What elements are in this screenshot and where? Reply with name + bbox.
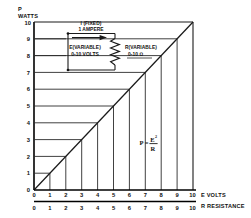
resistor-label-line2: 0-10 Ω — [128, 52, 143, 57]
current-label-line1: I (FIXED) — [81, 21, 102, 26]
x-volts-tick-0: 0 — [32, 192, 35, 198]
x-res-tick-10: 10 — [189, 205, 195, 211]
y-tick-0: 0 — [27, 187, 30, 193]
y-tick-10: 10 — [25, 20, 31, 26]
power-resistance-figure: 0 1 2 3 4 5 6 7 8 9 10 P WATTS 0 1 2 3 4… — [0, 0, 251, 218]
x-res-tick-0: 0 — [32, 205, 35, 211]
x-res-tick-7: 7 — [144, 205, 147, 211]
formula-lhs: P = — [140, 139, 149, 146]
x-volts-tick-10: 10 — [189, 192, 195, 198]
formula-denominator: R — [151, 145, 156, 152]
source-label-line2: 0-10 VOLTS — [71, 52, 99, 57]
formula-exponent: 2 — [155, 134, 157, 139]
x-volts-tick-7: 7 — [144, 192, 147, 198]
circuit-node-top-left — [67, 32, 70, 35]
y-axis-title-unit: WATTS — [18, 13, 38, 19]
chart-canvas: 0 1 2 3 4 5 6 7 8 9 10 P WATTS 0 1 2 3 4… — [0, 0, 251, 218]
y-tick-7: 7 — [27, 70, 30, 76]
y-axis-title-symbol: P — [18, 6, 22, 12]
x-volts-tick-2: 2 — [64, 192, 67, 198]
x-axis-volts-title: E VOLTS — [201, 192, 226, 198]
source-label-line1: E(VARIABLE) — [69, 45, 101, 50]
resistor-label-line1: R(VARIABLE) — [125, 45, 157, 50]
current-label-line2: 1 AMPERE — [78, 27, 104, 32]
formula-numerator: E — [150, 136, 154, 143]
x-axis-resistance-title: R RESISTANCE — [201, 203, 245, 209]
x-res-tick-2: 2 — [64, 205, 67, 211]
circuit-node-bottom-left — [67, 69, 70, 72]
y-tick-2: 2 — [27, 154, 30, 160]
